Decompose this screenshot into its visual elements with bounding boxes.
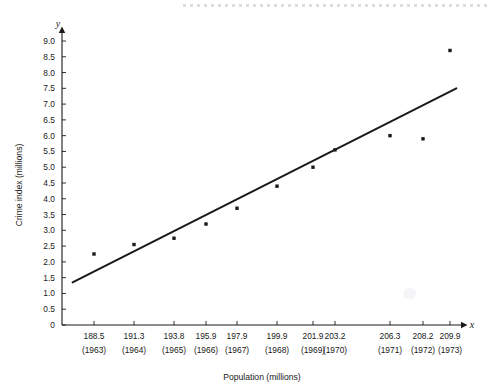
- x-tick-label: 193.8: [164, 331, 185, 341]
- x-tick-label: 201.9: [303, 331, 324, 341]
- y-tick-label: 5.5: [43, 146, 55, 156]
- x-tick-year-label: (1964): [122, 345, 146, 355]
- data-point: [333, 148, 336, 151]
- scatter-plot-canvas: 00.51.01.52.02.53.03.54.04.55.05.56.06.5…: [0, 0, 495, 389]
- x-tick-year-label: (1966): [194, 345, 218, 355]
- data-point: [311, 166, 314, 169]
- x-tick-label: 209.9: [440, 331, 461, 341]
- x-tick-label: 191.3: [124, 331, 145, 341]
- x-tick-label: 188.5: [84, 331, 105, 341]
- data-point: [421, 137, 424, 140]
- y-tick-label: 5.0: [43, 162, 55, 172]
- y-tick-label: 3.5: [43, 210, 55, 220]
- y-axis-title: Crime index (millions): [14, 144, 24, 227]
- x-axis-ticks: 188.5(1963)191.3(1964)193.8(1965)195.9(1…: [82, 321, 462, 355]
- data-point: [132, 243, 135, 246]
- y-tick-label: 0.5: [43, 304, 55, 314]
- regression-line: [73, 88, 457, 282]
- x-tick-year-label: (1963): [82, 345, 106, 355]
- y-tick-label: 3.0: [43, 225, 55, 235]
- x-tick-label: 208.2: [413, 331, 434, 341]
- y-tick-label: 6.0: [43, 131, 55, 141]
- data-point: [235, 207, 238, 210]
- x-tick-year-label: (1973): [438, 345, 462, 355]
- data-point: [448, 49, 451, 52]
- data-point: [388, 134, 391, 137]
- y-tick-label: 7.5: [43, 83, 55, 93]
- x-tick-year-label: (1965): [162, 345, 186, 355]
- y-tick-label: 8.5: [43, 52, 55, 62]
- data-points-group: [92, 49, 451, 256]
- x-tick-year-label: (1971): [378, 345, 402, 355]
- y-tick-label: 6.5: [43, 115, 55, 125]
- x-tick-year-label: (1967): [225, 345, 249, 355]
- y-tick-label: 1.5: [43, 273, 55, 283]
- x-tick-year-label: (1968): [265, 345, 289, 355]
- x-axis-symbol: x: [469, 319, 475, 330]
- y-tick-label: 1.0: [43, 288, 55, 298]
- data-point: [204, 222, 207, 225]
- data-point: [172, 237, 175, 240]
- y-axis-ticks: 00.51.01.52.02.53.03.54.04.55.05.56.06.5…: [43, 36, 66, 330]
- chart-figure: 00.51.01.52.02.53.03.54.04.55.05.56.06.5…: [0, 0, 495, 389]
- y-tick-label: 4.0: [43, 194, 55, 204]
- y-tick-label: 0: [50, 320, 55, 330]
- y-tick-label: 4.5: [43, 178, 55, 188]
- y-axis-symbol: y: [55, 18, 61, 29]
- y-tick-label: 9.0: [43, 36, 55, 46]
- x-tick-year-label: (1972): [411, 345, 435, 355]
- regression-line-group: [73, 88, 457, 282]
- x-tick-label: 195.9: [196, 331, 217, 341]
- x-tick-label: 199.9: [267, 331, 288, 341]
- data-point: [275, 184, 278, 187]
- y-tick-label: 2.5: [43, 241, 55, 251]
- y-tick-label: 7.0: [43, 99, 55, 109]
- x-tick-year-label: (1969): [301, 345, 325, 355]
- x-tick-year-label: (1970): [323, 345, 347, 355]
- data-point: [92, 252, 95, 255]
- x-axis-title: Population (millions): [223, 372, 301, 382]
- x-tick-label: 206.3: [380, 331, 401, 341]
- x-tick-label: 203.2: [325, 331, 346, 341]
- y-tick-label: 8.0: [43, 68, 55, 78]
- y-tick-label: 2.0: [43, 257, 55, 267]
- x-tick-label: 197.9: [227, 331, 248, 341]
